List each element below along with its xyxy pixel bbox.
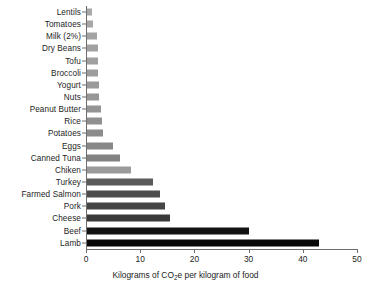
category-label: Yogurt [57,80,81,89]
table-row: Eggs [0,140,371,152]
bar-rows: LentilsTomatoesMilk (2%)Dry BeansTofuBro… [0,6,371,249]
bar [87,118,102,125]
category-label: Cheese [52,214,81,223]
y-axis-tick-mark [82,60,86,61]
y-axis-tick-mark [82,121,86,122]
bar [87,166,131,173]
bar [87,57,98,64]
x-axis-tick-mark [303,249,304,253]
table-row: Nuts [0,91,371,103]
category-label: Tomatoes [45,20,81,29]
bar [87,154,120,161]
table-row: Lentils [0,6,371,18]
y-axis-tick-mark [82,145,86,146]
bar [87,106,101,113]
table-row: Potatoes [0,127,371,139]
table-row: Rice [0,115,371,127]
x-axis-ticks: 01020304050 [86,249,357,269]
bar [87,33,97,40]
x-axis-tick-label: 20 [190,254,199,264]
x-axis-tick-mark [86,249,87,253]
x-axis-tick-label: 50 [352,254,361,264]
category-label: Chiken [55,165,81,174]
category-label: Nuts [64,93,81,102]
y-axis-tick-mark [82,24,86,25]
x-axis-tick-mark [357,249,358,253]
category-label: Peanut Butter [30,105,81,114]
y-axis-tick-mark [82,157,86,158]
bar [87,81,99,88]
y-axis-tick-mark [82,206,86,207]
y-axis-tick-mark [82,48,86,49]
y-axis-tick-mark [82,242,86,243]
table-row: Lamb [0,237,371,249]
x-axis-tick-mark [194,249,195,253]
y-axis-tick-mark [82,218,86,219]
bar [87,179,153,186]
category-label: Lamb [60,238,81,247]
category-label: Tofu [65,56,81,65]
category-label: Potatoes [48,129,81,138]
x-axis-tick-mark [140,249,141,253]
table-row: Canned Tuna [0,152,371,164]
table-row: Turkey [0,176,371,188]
y-axis-tick-mark [82,230,86,231]
y-axis-tick-mark [82,109,86,110]
category-label: Milk (2%) [46,32,81,41]
table-row: Cheese [0,212,371,224]
x-axis-title: Kilograms of CO2e per kilogram of food [0,270,371,281]
y-axis-tick-mark [82,97,86,98]
bar [87,142,113,149]
category-label: Beef [64,226,81,235]
bar [87,203,165,210]
category-label: Broccoli [51,68,81,77]
category-label: Dry Beans [42,44,81,53]
bar [87,21,93,28]
bar [87,239,319,246]
y-axis-tick-mark [82,84,86,85]
y-axis-tick-mark [82,182,86,183]
x-axis-tick-label: 40 [298,254,307,264]
table-row: Broccoli [0,67,371,79]
y-axis-tick-mark [82,72,86,73]
table-row: Tofu [0,55,371,67]
x-axis-tick-label: 0 [84,254,89,264]
bar [87,45,98,52]
x-axis-tick-label: 10 [136,254,145,264]
category-label: Turkey [56,178,81,187]
table-row: Chiken [0,164,371,176]
co2e-bar-chart: LentilsTomatoesMilk (2%)Dry BeansTofuBro… [0,0,371,289]
category-label: Eggs [62,141,81,150]
category-label: Canned Tuna [31,153,81,162]
x-axis-title-subscript: 2 [174,274,178,281]
table-row: Yogurt [0,79,371,91]
bar [87,215,170,222]
category-label: Pork [64,202,81,211]
x-axis-tick-label: 30 [244,254,253,264]
bar [87,227,249,234]
y-axis-tick-mark [82,36,86,37]
bar [87,9,92,16]
bar [87,191,160,198]
x-axis-title-before: Kilograms of CO [112,270,173,280]
category-label: Farmed Salmon [21,190,81,199]
table-row: Peanut Butter [0,103,371,115]
y-axis-tick-mark [82,169,86,170]
category-label: Rice [64,117,81,126]
y-axis-tick-mark [82,194,86,195]
table-row: Beef [0,225,371,237]
bar [87,130,103,137]
y-axis-tick-mark [82,12,86,13]
table-row: Farmed Salmon [0,188,371,200]
x-axis-tick-mark [249,249,250,253]
bar [87,69,98,76]
table-row: Dry Beans [0,42,371,54]
table-row: Tomatoes [0,18,371,30]
bar [87,94,99,101]
category-label: Lentils [57,8,81,17]
table-row: Milk (2%) [0,30,371,42]
y-axis-tick-mark [82,133,86,134]
x-axis-title-after: e per kilogram of food [177,270,258,280]
table-row: Pork [0,200,371,212]
